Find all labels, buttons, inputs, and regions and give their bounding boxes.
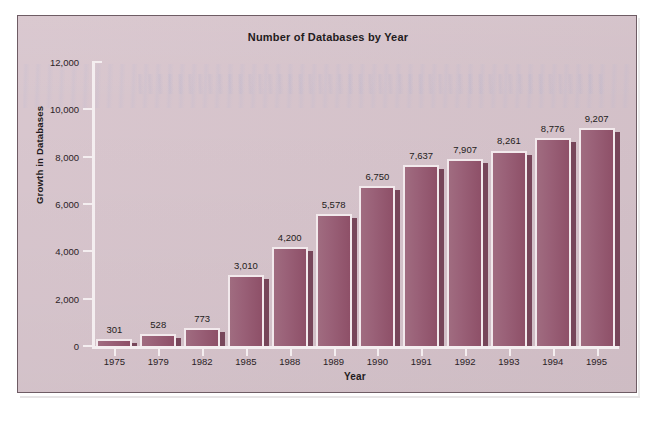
x-tick-mark <box>246 349 248 356</box>
x-tick-label: 1992 <box>455 356 476 367</box>
bar-shadow <box>483 163 488 346</box>
bar <box>228 275 264 346</box>
bar-value-label: 6,750 <box>366 171 390 182</box>
y-tick-mark <box>83 108 92 110</box>
x-tick-label: 1988 <box>279 356 300 367</box>
bar-shadow <box>615 132 620 346</box>
x-tick-label: 1994 <box>542 356 563 367</box>
bar <box>403 165 439 346</box>
x-tick-mark <box>202 349 204 356</box>
bar <box>316 214 352 346</box>
bar-shadow <box>527 155 532 347</box>
chart-page: Number of Databases by Year Growth in Da… <box>0 0 664 428</box>
x-tick-mark <box>377 349 379 356</box>
bar <box>272 247 308 346</box>
y-tick-label: 0 <box>74 341 79 352</box>
x-axis-line <box>92 346 619 349</box>
y-tick-mark <box>83 345 92 347</box>
bar-value-label: 7,637 <box>409 150 433 161</box>
chart-title: Number of Databases by Year <box>18 31 637 43</box>
y-tick-label: 4,000 <box>55 246 79 257</box>
bar-value-label: 528 <box>150 319 166 330</box>
bar-value-label: 9,207 <box>585 113 609 124</box>
bar-value-label: 8,776 <box>541 123 565 134</box>
page-shadow-bottom <box>20 396 640 398</box>
bar-value-label: 7,907 <box>453 144 477 155</box>
bar-shadow <box>439 169 444 346</box>
x-tick-mark <box>158 349 160 356</box>
y-tick-label: 8,000 <box>55 151 79 162</box>
bar <box>359 186 395 346</box>
bar-shadow <box>352 218 357 346</box>
y-tick-label: 12,000 <box>50 57 79 68</box>
bar-shadow <box>220 332 225 346</box>
bar <box>140 334 176 346</box>
bar-value-label: 301 <box>106 324 122 335</box>
x-tick-mark <box>114 349 116 356</box>
y-tick-mark <box>83 156 92 158</box>
x-tick-mark <box>334 349 336 356</box>
x-tick-label: 1982 <box>192 356 213 367</box>
x-tick-label: 1975 <box>104 356 125 367</box>
bar-shadow <box>571 142 576 346</box>
bar <box>579 128 615 346</box>
plot-area: 02,0004,0006,0008,00010,00012,000 301528… <box>92 62 618 346</box>
bar <box>491 151 527 347</box>
bar <box>447 159 483 346</box>
x-tick-label: 1985 <box>235 356 256 367</box>
x-tick-mark <box>421 349 423 356</box>
bar-shadow <box>132 343 137 346</box>
bar-value-label: 773 <box>194 313 210 324</box>
x-tick-label: 1989 <box>323 356 344 367</box>
bar <box>535 138 571 346</box>
y-tick-label: 2,000 <box>55 293 79 304</box>
y-tick-label: 6,000 <box>55 199 79 210</box>
y-tick-label: 10,000 <box>50 104 79 115</box>
x-tick-mark <box>553 349 555 356</box>
bar-shadow <box>308 251 313 346</box>
bar-value-label: 4,200 <box>278 232 302 243</box>
bar-shadow <box>176 338 181 346</box>
bar <box>96 339 132 346</box>
y-tick-mark <box>83 250 92 252</box>
bar-value-label: 3,010 <box>234 260 258 271</box>
x-tick-label: 1993 <box>498 356 519 367</box>
bar-value-label: 8,261 <box>497 135 521 146</box>
x-tick-mark <box>465 349 467 356</box>
x-tick-mark <box>509 349 511 356</box>
x-tick-mark <box>290 349 292 356</box>
x-tick-label: 1990 <box>367 356 388 367</box>
bar <box>184 328 220 346</box>
x-tick-label: 1995 <box>586 356 607 367</box>
chart-frame: Number of Databases by Year Growth in Da… <box>17 15 637 393</box>
page-shadow-right <box>638 18 640 396</box>
x-tick-mark <box>597 349 599 356</box>
x-tick-label: 1991 <box>411 356 432 367</box>
y-axis-title: Growth in Databases <box>34 106 45 204</box>
bar-shadow <box>395 190 400 346</box>
y-tick-mark <box>83 298 92 300</box>
x-axis-title: Year <box>92 371 618 382</box>
y-axis-line <box>92 62 95 347</box>
y-tick-mark <box>92 61 102 63</box>
y-tick-mark <box>83 203 92 205</box>
bar-shadow <box>264 279 269 346</box>
bar-value-label: 5,578 <box>322 199 346 210</box>
x-tick-label: 1979 <box>148 356 169 367</box>
